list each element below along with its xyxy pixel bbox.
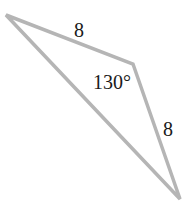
triangle-diagram: 8 130° 8 [0, 0, 193, 205]
side-label-right: 8 [163, 118, 173, 140]
angle-label: 130° [93, 71, 131, 93]
triangle-shape [6, 15, 180, 199]
side-label-top: 8 [74, 19, 84, 41]
triangle-svg: 8 130° 8 [0, 0, 193, 205]
